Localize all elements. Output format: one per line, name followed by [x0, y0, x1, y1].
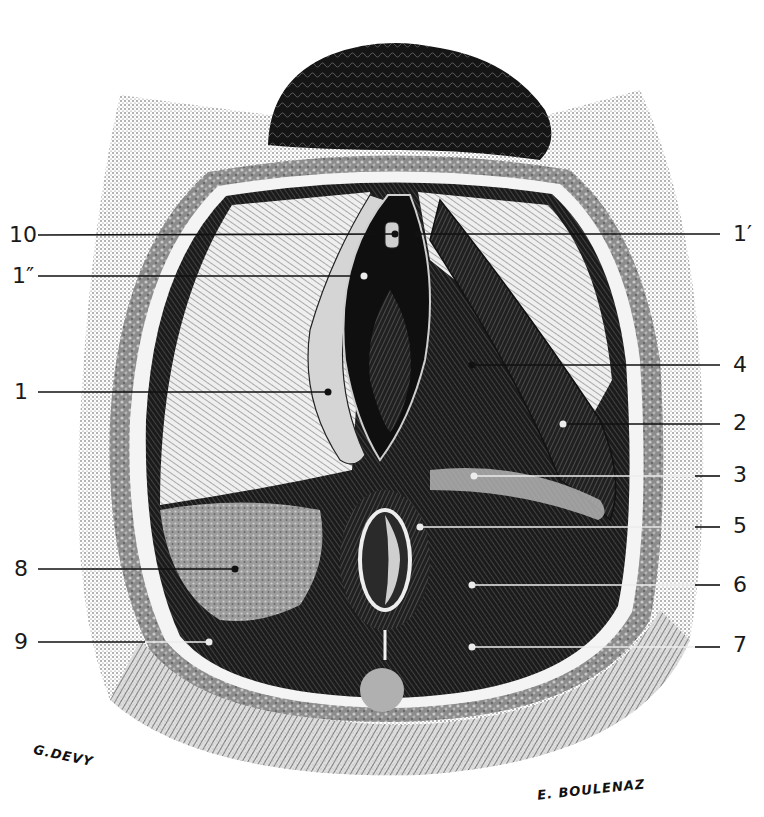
label-1-double-prime: 1″ [12, 265, 34, 287]
label-5: 5 [733, 515, 747, 537]
hair-tuft [268, 43, 551, 160]
label-9: 9 [14, 631, 28, 653]
label-4: 4 [733, 354, 747, 376]
label-8: 8 [14, 558, 28, 580]
label-7: 7 [733, 634, 747, 656]
label-10: 10 [9, 224, 37, 246]
anococcygeal-body [360, 668, 404, 712]
label-2: 2 [733, 412, 747, 434]
label-1-prime: 1′ [733, 223, 752, 245]
label-6: 6 [733, 574, 747, 596]
label-1: 1 [14, 381, 28, 403]
label-3: 3 [733, 464, 747, 486]
anatomical-figure [0, 0, 764, 817]
